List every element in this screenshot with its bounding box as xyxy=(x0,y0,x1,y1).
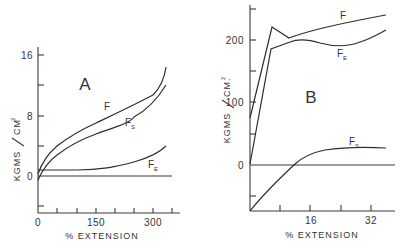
y-axis-title-b: KGMS CM. 2 xyxy=(220,76,234,144)
x-tick-label-16: 16 xyxy=(305,215,317,226)
x-ticks-b xyxy=(280,205,371,211)
y-tick-label-0: 0 xyxy=(27,171,33,182)
panel-label-b: B xyxy=(305,88,316,107)
y-tick-label-200: 200 xyxy=(226,35,244,46)
y-ticks-b xyxy=(250,9,256,196)
panel-label-a: A xyxy=(79,75,91,94)
x-axis-title-a: % EXTENSION xyxy=(65,231,139,241)
curve-fs-a xyxy=(38,85,166,180)
y-tick-label-8: 8 xyxy=(27,111,33,122)
svg-text:2: 2 xyxy=(220,76,226,80)
curve-label-fe-a: FE xyxy=(148,159,158,172)
x-tick-label-150: 150 xyxy=(87,217,105,228)
x-tick-label-300: 300 xyxy=(144,217,162,228)
curve-label-fs-a: FS xyxy=(125,117,135,130)
x-ticks-a xyxy=(57,208,172,213)
figure-canvas: 16 8 0 0 150 300 % EXTENSION KGMS CM 2 A… xyxy=(0,0,401,249)
x-tick-label-32: 32 xyxy=(365,215,377,226)
curve-label-f-b: F xyxy=(340,10,346,21)
y-axis-title-a: KGMS CM 2 xyxy=(10,117,24,182)
y-tick-label-16: 16 xyxy=(21,50,33,61)
curve-fe-b xyxy=(250,30,386,164)
panel-a: 16 8 0 0 150 300 % EXTENSION KGMS CM 2 A… xyxy=(10,47,180,241)
svg-text:KGMS: KGMS xyxy=(12,151,22,182)
panel-b: 200 100 0 16 32 % EXTENSION KGMS CM. 2 B… xyxy=(220,5,395,240)
svg-text:KGMS: KGMS xyxy=(222,113,232,144)
y-tick-label-100: 100 xyxy=(226,97,244,108)
curve-fe-a xyxy=(38,146,166,170)
curve-label-f-a: F xyxy=(104,101,110,112)
y-tick-label-0-b: 0 xyxy=(238,160,244,171)
x-axis-title-b: % EXTENSION xyxy=(285,230,359,240)
svg-text:2: 2 xyxy=(10,117,16,121)
y-ticks-a xyxy=(38,55,44,206)
x-tick-label-0: 0 xyxy=(35,217,41,228)
curve-fs-b xyxy=(250,147,386,211)
curve-f-b xyxy=(250,15,386,118)
curve-label-fe-b: FE xyxy=(337,48,347,61)
